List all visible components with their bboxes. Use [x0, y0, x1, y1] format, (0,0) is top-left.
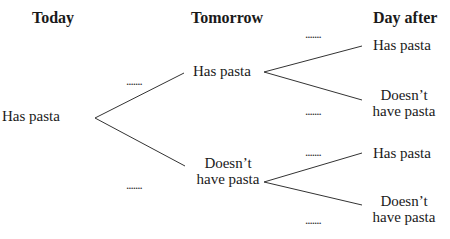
node-line2: have pasta: [194, 171, 262, 187]
blank-prob-doesnt-has: .......: [305, 147, 321, 157]
branch-has-to-doesnt: [264, 72, 362, 100]
node-dayafter-has-pasta-2: Has pasta: [373, 145, 431, 161]
node-tomorrow-has-pasta: Has pasta: [193, 63, 251, 79]
node-line2: have pasta: [369, 209, 439, 225]
blank-prob-today-has: .......: [126, 76, 142, 86]
blank-prob-doesnt-doesnt: .......: [305, 215, 321, 225]
node-line2: have pasta: [369, 103, 439, 119]
branch-today-to-doesnt: [95, 118, 185, 166]
node-tomorrow-doesnt-have-pasta: Doesn’t have pasta: [194, 155, 262, 187]
node-dayafter-doesnt-have-pasta-2: Doesn’t have pasta: [369, 193, 439, 225]
node-dayafter-doesnt-have-pasta-1: Doesn’t have pasta: [369, 87, 439, 119]
blank-prob-has-doesnt: .......: [305, 106, 321, 116]
blank-prob-has-has: .......: [305, 29, 321, 39]
branch-doesnt-to-doesnt: [264, 182, 362, 205]
blank-prob-today-doesnt: .......: [126, 180, 142, 190]
node-line1: Doesn’t: [369, 87, 439, 103]
node-dayafter-has-pasta-1: Has pasta: [373, 37, 431, 53]
node-line1: Doesn’t: [369, 193, 439, 209]
branch-has-to-has: [264, 46, 362, 72]
node-today-has-pasta: Has pasta: [2, 108, 60, 124]
node-line1: Doesn’t: [194, 155, 262, 171]
